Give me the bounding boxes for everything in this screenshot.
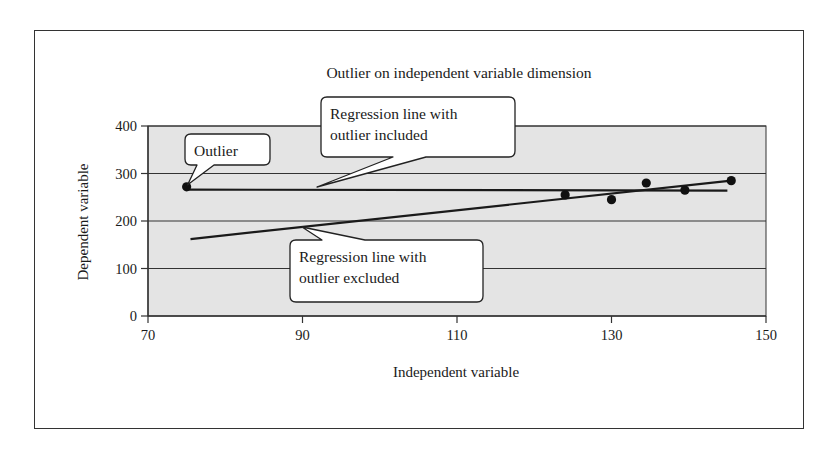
chart-title: Outlier on independent variable dimensio… (326, 64, 591, 81)
x-tick-label: 110 (446, 327, 467, 343)
y-tick-label: 300 (115, 166, 137, 182)
x-tick-label: 150 (755, 327, 777, 343)
x-tick-label: 70 (141, 327, 156, 343)
y-tick-label: 100 (115, 261, 137, 277)
x-tick-label: 130 (601, 327, 623, 343)
data-point (642, 178, 651, 187)
data-point (680, 186, 689, 195)
callout-text: Regression line with (330, 105, 458, 122)
scatter-chart: 01002003004007090110130150 OutlierRegres… (0, 0, 835, 463)
data-point (561, 190, 570, 199)
x-axis-label: Independent variable (393, 364, 520, 380)
callout-text: outlier included (330, 126, 428, 143)
data-point (607, 195, 616, 204)
callout-text: outlier excluded (299, 269, 400, 286)
y-tick-label: 0 (130, 308, 137, 324)
y-axis-label: Dependent variable (75, 163, 91, 280)
y-tick-label: 400 (115, 118, 137, 134)
x-tick-label: 90 (295, 327, 310, 343)
data-point (727, 176, 736, 185)
callout-text: Regression line with (299, 248, 427, 265)
callout-text: Outlier (194, 142, 239, 159)
y-tick-label: 200 (115, 213, 137, 229)
